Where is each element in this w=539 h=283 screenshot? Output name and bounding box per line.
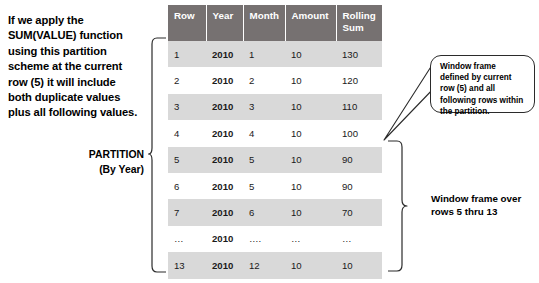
cell-amount: 10	[285, 67, 336, 93]
cell-amount: …	[285, 226, 336, 252]
rolling-sum-table: Row Year Month Amount Rolling Sum 1 2010…	[168, 5, 382, 279]
partition-brace	[148, 30, 170, 280]
column-header-rolling-sum-line2: Sum	[343, 22, 364, 33]
column-header-month: Month	[243, 5, 285, 41]
cell-amount: 10	[285, 120, 336, 146]
cell-amount: 10	[285, 41, 336, 67]
cell-rolling-sum: 110	[336, 94, 382, 120]
cell-month: 2	[243, 67, 285, 93]
cell-amount: 10	[285, 147, 336, 173]
cell-row: 13	[168, 252, 206, 278]
callout-line: defined by current	[440, 72, 528, 83]
callout-line: the partition.	[440, 106, 528, 117]
cell-year: 2010	[206, 67, 243, 93]
window-frame-label-line: rows 5 thru 13	[431, 205, 537, 218]
explanation-line: both duplicate values	[8, 90, 156, 105]
explanation-line: SUM(VALUE) function	[8, 28, 156, 43]
cell-year: 2010	[206, 199, 243, 225]
cell-year: 2010	[206, 41, 243, 67]
cell-amount: 10	[285, 252, 336, 278]
cell-rolling-sum: 100	[336, 120, 382, 146]
table-row: 3 2010 3 10 110	[168, 94, 382, 120]
window-frame-brace	[386, 136, 408, 281]
cell-amount: 10	[285, 173, 336, 199]
table-header-row: Row Year Month Amount Rolling Sum	[168, 5, 382, 41]
cell-rolling-sum: …	[336, 226, 382, 252]
explanation-text: If we apply the SUM(VALUE) function usin…	[8, 13, 156, 121]
cell-row: 7	[168, 199, 206, 225]
cell-row: 1	[168, 41, 206, 67]
cell-rolling-sum: 70	[336, 199, 382, 225]
cell-month: 1	[243, 41, 285, 67]
partition-label-line: PARTITION	[60, 148, 144, 163]
cell-amount: 10	[285, 199, 336, 225]
table-row: 7 2010 6 10 70	[168, 199, 382, 225]
cell-year: 2010	[206, 94, 243, 120]
cell-year: 2010	[206, 120, 243, 146]
cell-rolling-sum: 90	[336, 147, 382, 173]
table-row: 2 2010 2 10 120	[168, 67, 382, 93]
cell-row: …	[168, 226, 206, 252]
table-row: … 2010 …. … …	[168, 226, 382, 252]
window-frame-label-line: Window frame over	[431, 192, 537, 205]
explanation-line: If we apply the	[8, 13, 156, 28]
cell-month: 3	[243, 94, 285, 120]
table-row: 4 2010 4 10 100	[168, 120, 382, 146]
explanation-line: scheme at the current	[8, 59, 156, 74]
callout-line: following rows within	[440, 95, 528, 106]
cell-amount: 10	[285, 94, 336, 120]
explanation-line: plus all following values.	[8, 105, 156, 120]
cell-month: 5	[243, 147, 285, 173]
cell-year: 2010	[206, 173, 243, 199]
table-row: 6 2010 5 10 90	[168, 173, 382, 199]
cell-row: 4	[168, 120, 206, 146]
cell-month: 12	[243, 252, 285, 278]
cell-rolling-sum: 130	[336, 41, 382, 67]
column-header-amount: Amount	[285, 5, 336, 41]
callout-line: Window frame	[440, 61, 528, 72]
cell-year: 2010	[206, 252, 243, 278]
table-row: 5 2010 5 10 90	[168, 147, 382, 173]
cell-rolling-sum: 10	[336, 252, 382, 278]
cell-row: 5	[168, 147, 206, 173]
table-row: 1 2010 1 10 130	[168, 41, 382, 67]
cell-year: 2010	[206, 147, 243, 173]
cell-month: 4	[243, 120, 285, 146]
cell-month: 5	[243, 173, 285, 199]
cell-row: 6	[168, 173, 206, 199]
table-row: 13 2010 12 10 10	[168, 252, 382, 278]
window-frame-label: Window frame over rows 5 thru 13	[431, 192, 537, 219]
column-header-rolling-sum-line1: Rolling	[343, 10, 376, 21]
cell-rolling-sum: 120	[336, 67, 382, 93]
window-frame-callout: Window frame defined by current row (5) …	[430, 55, 535, 113]
cell-month: 6	[243, 199, 285, 225]
column-header-rolling-sum: Rolling Sum	[336, 5, 382, 41]
column-header-year: Year	[206, 5, 243, 41]
explanation-line: row (5) it will include	[8, 75, 156, 90]
explanation-line: using this partition	[8, 44, 156, 59]
cell-rolling-sum: 90	[336, 173, 382, 199]
partition-label: PARTITION (By Year)	[60, 148, 144, 177]
cell-row: 3	[168, 94, 206, 120]
cell-year: 2010	[206, 226, 243, 252]
column-header-row: Row	[168, 5, 206, 41]
cell-row: 2	[168, 67, 206, 93]
slide-canvas: If we apply the SUM(VALUE) function usin…	[0, 0, 539, 283]
cell-month: ….	[243, 226, 285, 252]
callout-line: row (5) and all	[440, 83, 528, 94]
partition-label-line: (By Year)	[60, 163, 144, 178]
